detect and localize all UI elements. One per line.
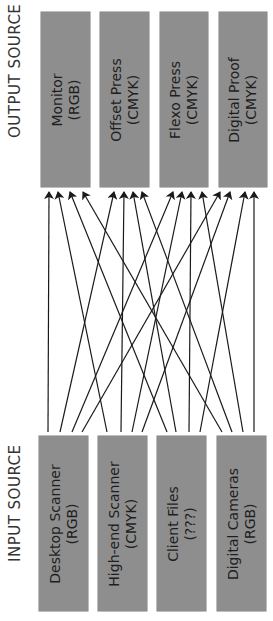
connection-arrow	[58, 192, 107, 432]
connection-arrows	[0, 0, 273, 621]
connection-arrow	[202, 192, 243, 432]
connection-arrow	[82, 192, 220, 432]
connection-arrow	[121, 192, 124, 432]
connection-arrow	[48, 192, 49, 432]
connection-arrow	[189, 192, 191, 432]
